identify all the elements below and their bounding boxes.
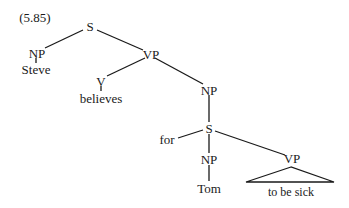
node-np-embedded: NP [201, 153, 218, 166]
leaf-to-be-sick: to be sick [268, 186, 314, 199]
edge-s-np [45, 30, 83, 48]
edge-s-vp2 [215, 131, 285, 155]
node-np-object: NP [201, 84, 218, 97]
edge-vp-np [155, 58, 203, 84]
node-vp-embedded: VP [284, 152, 301, 165]
edge-vp-v [107, 58, 145, 76]
edge-s-for [178, 130, 203, 138]
node-s-root: S [86, 20, 93, 33]
edge-s-vp [97, 30, 143, 50]
node-np-subject: NP [29, 47, 46, 60]
node-v: V [96, 75, 105, 88]
node-vp-main: VP [143, 48, 160, 61]
leaf-for: for [159, 133, 174, 146]
leaf-steve: Steve [22, 63, 51, 76]
example-number: (5.85) [19, 11, 50, 24]
leaf-tom: Tom [197, 182, 221, 195]
leaf-believes: believes [80, 92, 123, 105]
node-s-embedded: S [205, 122, 212, 135]
tree-edges [0, 0, 349, 208]
triangle-vp [246, 167, 334, 182]
